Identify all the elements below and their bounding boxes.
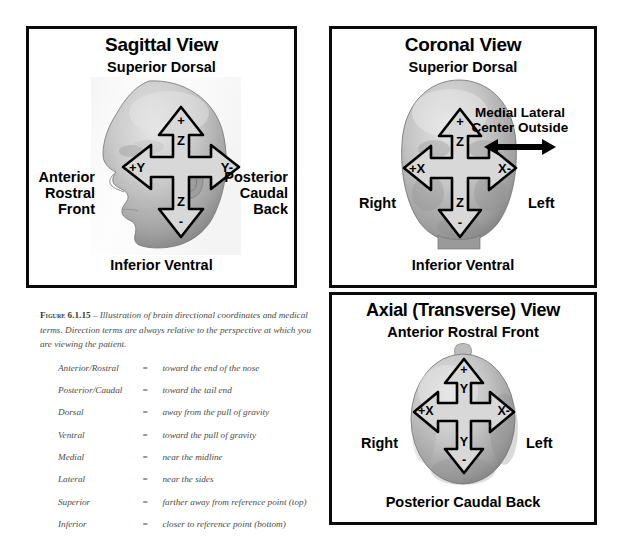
sagittal-anterior-line-1: Anterior bbox=[33, 169, 95, 185]
panel-coronal-view: Coronal View Superior Dorsal bbox=[329, 26, 597, 288]
sagittal-axis-up-sign: + bbox=[119, 113, 243, 128]
sagittal-anterior-line-2: Rostral bbox=[33, 185, 95, 201]
axial-right-label: Right bbox=[336, 435, 398, 451]
glossary-equals: = bbox=[142, 406, 163, 428]
glossary-row: Lateral = near the sides bbox=[58, 473, 318, 495]
sagittal-posterior-line-3: Back bbox=[216, 201, 288, 217]
axial-axis-up-label: Y bbox=[410, 382, 518, 396]
axial-axis-left-label: +X bbox=[418, 404, 434, 418]
glossary-definition: near the sides bbox=[162, 473, 318, 495]
glossary-row: Medial = near the midline bbox=[58, 451, 318, 473]
sagittal-posterior-line-1: Posterior bbox=[216, 169, 288, 185]
glossary-row: Ventral = toward the pull of gravity bbox=[58, 429, 318, 451]
glossary-row: Posterior/Caudal = toward the tail end bbox=[58, 384, 318, 406]
figure-number: 6.1.15 bbox=[68, 310, 91, 320]
glossary-definition: away from the pull of gravity bbox=[162, 406, 318, 428]
glossary-definition: farther away from reference point (top) bbox=[162, 496, 318, 518]
sagittal-axis-left-label: +Y bbox=[129, 160, 145, 175]
glossary-term: Anterior/Rostral bbox=[58, 362, 142, 384]
coronal-medial-lateral-line-1: Medial Lateral bbox=[452, 105, 588, 120]
glossary-definition: toward the end of the nose bbox=[162, 362, 318, 384]
axial-axis-cross: + Y Y - +X X- bbox=[410, 357, 518, 475]
coronal-inferior-label: Inferior Ventral bbox=[332, 257, 594, 273]
glossary-equals: = bbox=[142, 362, 163, 384]
coronal-right-label-text: Right bbox=[336, 195, 396, 211]
coronal-axis-down-label: Z bbox=[400, 195, 520, 210]
glossary-definition: toward the pull of gravity bbox=[162, 429, 318, 451]
glossary-term: Inferior bbox=[58, 518, 142, 540]
glossary-term: Dorsal bbox=[58, 406, 142, 428]
panel-title-coronal: Coronal View bbox=[332, 35, 594, 56]
glossary-definition: near the midline bbox=[162, 451, 318, 473]
coronal-medial-lateral-label: Medial Lateral Center Outside bbox=[452, 105, 588, 135]
figure-page: Sagittal View Superior Dorsal bbox=[0, 0, 625, 558]
axial-left-label-text: Left bbox=[526, 435, 586, 451]
coronal-axis-right-label: X- bbox=[498, 161, 511, 176]
axial-axis-down-label: Y bbox=[410, 435, 518, 449]
sagittal-posterior-line-2: Caudal bbox=[216, 185, 288, 201]
glossary-term: Lateral bbox=[58, 473, 142, 495]
coronal-axis-left-label: +X bbox=[409, 161, 425, 176]
glossary-equals: = bbox=[142, 429, 163, 451]
coronal-left-label-text: Left bbox=[528, 195, 588, 211]
glossary-row: Anterior/Rostral = toward the end of the… bbox=[58, 362, 318, 384]
glossary-definition: closer to reference point (bottom) bbox=[162, 518, 318, 540]
coronal-medial-lateral-line-2: Center Outside bbox=[452, 120, 588, 135]
coronal-medial-lateral-arrow-icon bbox=[482, 137, 558, 157]
sagittal-anterior-label: Anterior Rostral Front bbox=[33, 169, 95, 218]
sagittal-inferior-label: Inferior Ventral bbox=[29, 257, 294, 273]
glossary-term: Posterior/Caudal bbox=[58, 384, 142, 406]
glossary-definition: toward the tail end bbox=[162, 384, 318, 406]
coronal-right-label: Right bbox=[336, 195, 396, 211]
coronal-superior-label: Superior Dorsal bbox=[332, 60, 594, 76]
panel-title-sagittal: Sagittal View bbox=[29, 35, 294, 56]
panel-sagittal-view: Sagittal View Superior Dorsal bbox=[26, 26, 297, 288]
sagittal-anterior-line-3: Front bbox=[33, 201, 95, 217]
figure-caption-paragraph: Figure 6.1.15 – Illustration of brain di… bbox=[40, 308, 318, 352]
sagittal-posterior-label: Posterior Caudal Back bbox=[216, 169, 288, 218]
axial-left-label: Left bbox=[526, 435, 586, 451]
axial-axis-up-sign: + bbox=[410, 363, 518, 377]
figure-caption-block: Figure 6.1.15 – Illustration of brain di… bbox=[40, 308, 318, 540]
coronal-left-label: Left bbox=[528, 195, 588, 211]
panel-axial-view: Axial (Transverse) View Anterior Rostral… bbox=[329, 292, 597, 525]
axial-right-label-text: Right bbox=[336, 435, 398, 451]
glossary-term: Ventral bbox=[58, 429, 142, 451]
glossary-equals: = bbox=[142, 384, 163, 406]
panel-title-axial: Axial (Transverse) View bbox=[332, 301, 594, 321]
glossary-equals: = bbox=[142, 473, 163, 495]
axial-axis-down-sign: - bbox=[410, 453, 518, 467]
sagittal-superior-label: Superior Dorsal bbox=[29, 60, 294, 76]
axial-posterior-label: Posterior Caudal Back bbox=[332, 494, 594, 510]
glossary-term: Superior bbox=[58, 496, 142, 518]
figure-label: Figure bbox=[40, 310, 65, 320]
axial-axis-right-label: X- bbox=[498, 404, 511, 418]
glossary-equals: = bbox=[142, 451, 163, 473]
sagittal-axis-up-label: Z bbox=[119, 133, 243, 148]
glossary-term: Medial bbox=[58, 451, 142, 473]
glossary-equals: = bbox=[142, 496, 163, 518]
glossary-body: Anterior/Rostral = toward the end of the… bbox=[58, 362, 318, 541]
glossary-row: Inferior = closer to reference point (bo… bbox=[58, 518, 318, 540]
glossary-table: Anterior/Rostral = toward the end of the… bbox=[58, 362, 318, 541]
glossary-row: Dorsal = away from the pull of gravity bbox=[58, 406, 318, 428]
glossary-equals: = bbox=[142, 518, 163, 540]
coronal-axis-down-sign: - bbox=[400, 215, 520, 230]
axial-anterior-label: Anterior Rostral Front bbox=[332, 325, 594, 341]
glossary-row: Superior = farther away from reference p… bbox=[58, 496, 318, 518]
